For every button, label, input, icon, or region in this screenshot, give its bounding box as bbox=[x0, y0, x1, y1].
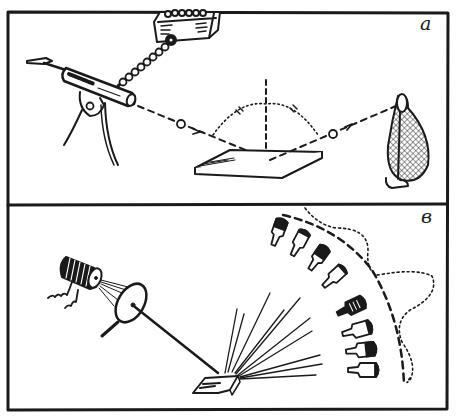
panel-label-b: в bbox=[421, 205, 432, 227]
ammo-box-icon bbox=[154, 10, 220, 45]
light-beam bbox=[135, 307, 218, 373]
diaphragm-icon bbox=[102, 278, 153, 336]
bottles bbox=[268, 217, 379, 377]
gun-icon bbox=[27, 58, 137, 165]
panel-label-a: a bbox=[420, 12, 431, 34]
lamp-coil-icon bbox=[48, 257, 104, 308]
scattered-rays bbox=[225, 293, 322, 379]
figure: a bbox=[0, 0, 457, 418]
panel-b: в bbox=[48, 205, 434, 395]
rough-surface-icon bbox=[193, 376, 240, 395]
plate-icon bbox=[195, 150, 322, 178]
panel-a: a bbox=[27, 10, 431, 188]
ball-chain-icon bbox=[118, 44, 169, 87]
